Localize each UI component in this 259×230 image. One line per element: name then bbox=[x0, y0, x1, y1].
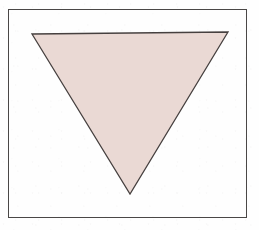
figure-canvas bbox=[0, 0, 259, 230]
figure-border-rectangle bbox=[8, 9, 247, 218]
